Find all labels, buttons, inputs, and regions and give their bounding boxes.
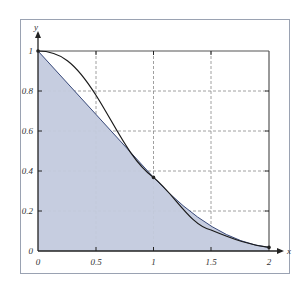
x-tick-label: 1 bbox=[151, 257, 156, 267]
y-tick-label: 1 bbox=[29, 46, 34, 56]
y-tick-label: 0.6 bbox=[22, 126, 34, 136]
x-axis-label: x bbox=[286, 246, 291, 256]
x-axis-arrow-icon bbox=[277, 248, 284, 254]
x-tick-label: 2 bbox=[267, 257, 272, 267]
y-tick-label: 0 bbox=[29, 246, 34, 256]
chart: 0 0.5 1 1.5 2 0 0.2 0.4 0.6 0.8 1 x y bbox=[0, 0, 308, 288]
y-tick-label: 0.4 bbox=[22, 166, 34, 176]
x-tick-label: 0.5 bbox=[90, 257, 102, 267]
x-tick-label: 0 bbox=[36, 257, 41, 267]
x-tick-label: 1.5 bbox=[205, 257, 217, 267]
y-axis-label: y bbox=[33, 22, 38, 32]
y-tick-label: 0.8 bbox=[22, 86, 34, 96]
y-axis-arrow-icon bbox=[35, 31, 41, 38]
y-tick-label: 0.2 bbox=[22, 206, 34, 216]
